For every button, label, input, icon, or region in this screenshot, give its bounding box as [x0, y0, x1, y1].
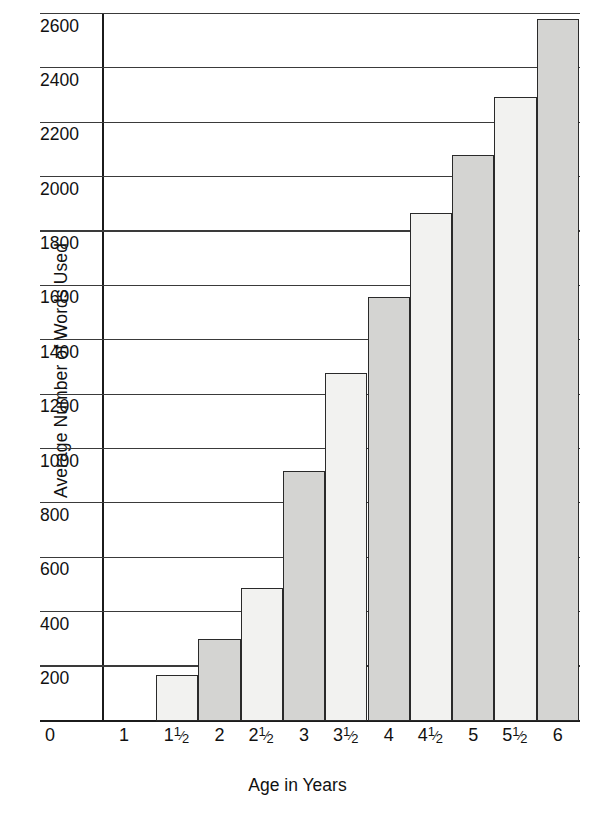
x-tick-label: 1 — [102, 726, 146, 745]
y-tick-label: 1400 — [40, 344, 95, 362]
y-tick-label: 200 — [40, 670, 95, 688]
x-tick-label: 2 — [197, 726, 241, 745]
bar — [494, 97, 536, 721]
bar — [537, 19, 579, 721]
y-tick-label: 1000 — [40, 453, 95, 471]
y-tick-label: 2200 — [40, 126, 95, 144]
x-tick-label: 5 — [451, 726, 495, 745]
bar-chart: Average Number of Words Used 20040060080… — [0, 0, 595, 813]
y-tick-label: 2000 — [40, 181, 95, 199]
y-tick-label: 1200 — [40, 398, 95, 416]
x-tick-label: 41⁄2 — [409, 726, 453, 745]
x-axis-title: Age in Years — [0, 775, 595, 796]
x-tick-label: 4 — [367, 726, 411, 745]
bar — [156, 675, 198, 721]
x-tick-label: 11⁄2 — [155, 726, 199, 745]
bar — [410, 213, 452, 721]
bar — [283, 471, 325, 721]
bar — [241, 588, 283, 721]
bar — [325, 373, 367, 721]
y-tick-label: 2600 — [40, 18, 95, 36]
y-tick-label: 2400 — [40, 72, 95, 90]
plot-area: 2004006008001000120014001600180020002200… — [102, 14, 579, 721]
y-axis-line — [102, 14, 104, 722]
bar-series — [156, 14, 579, 721]
y-tick-label: 1600 — [40, 289, 95, 307]
y-tick-label: 800 — [40, 507, 95, 525]
x-tick-label: 3 — [282, 726, 326, 745]
x-tick-labels: 0111⁄2221⁄2331⁄2441⁄2551⁄26 — [102, 726, 579, 760]
x-tick-label: 0 — [28, 726, 72, 745]
y-tick-label: 1800 — [40, 235, 95, 253]
bar — [452, 155, 494, 721]
y-tick-label: 400 — [40, 616, 95, 634]
x-tick-label: 51⁄2 — [494, 726, 538, 745]
x-tick-label: 31⁄2 — [324, 726, 368, 745]
y-tick-label: 600 — [40, 561, 95, 579]
y-axis-title: Average Number of Words Used — [51, 206, 72, 536]
x-tick-label: 6 — [536, 726, 580, 745]
bar — [368, 297, 410, 721]
x-tick-label: 21⁄2 — [240, 726, 284, 745]
bar — [198, 639, 240, 721]
